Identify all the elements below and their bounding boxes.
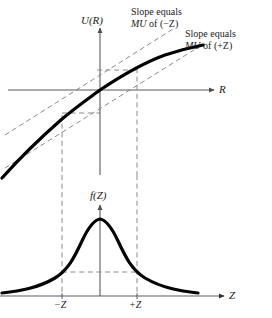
x-tick-label-plus-z: +Z [129,299,141,311]
upper-y-axis-label: U(R) [81,14,103,27]
figure-canvas: U(R) R Slope equals MU of (−Z) Slope equ… [0,0,272,318]
annotation-slope-plus-z: Slope equals MU of (+Z) [185,28,236,52]
annotation-minus-z-line2: MU of (−Z) [131,18,182,30]
annotation-plus-z-mu: MU [185,40,201,51]
annotation-plus-z-line1: Slope equals [185,28,236,40]
annotation-minus-z-line1: Slope equals [131,6,182,18]
utility-curve [2,45,203,178]
tangent-line-minus-z [5,29,173,135]
x-tick-label-minus-z: −Z [54,299,66,311]
upper-x-axis-label: R [219,83,226,96]
lower-panel-group [0,175,224,299]
annotation-minus-z-mu: MU [131,18,147,29]
annotation-plus-z-line2: MU of (+Z) [185,40,236,52]
annotation-slope-minus-z: Slope equals MU of (−Z) [131,6,182,30]
lower-x-axis-label: Z [229,289,235,302]
upper-panel-group [2,28,214,178]
tangent-line-plus-z [5,43,205,168]
lower-y-axis-label: f(Z) [90,189,107,202]
annotation-plus-z-rest: of (+Z) [203,40,232,51]
annotation-minus-z-rest: of (−Z) [149,18,178,29]
